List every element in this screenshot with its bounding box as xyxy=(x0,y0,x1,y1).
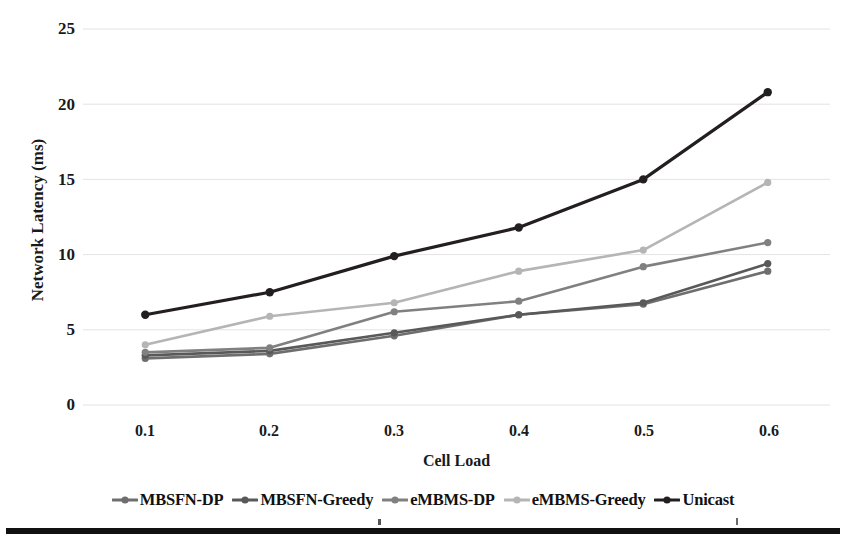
legend-marker-icon xyxy=(112,493,138,507)
data-point xyxy=(515,268,522,275)
data-point xyxy=(640,263,647,270)
series-lines xyxy=(141,88,772,362)
page-bottom-rule xyxy=(6,528,840,534)
data-point xyxy=(142,341,149,348)
data-point xyxy=(141,311,149,319)
data-point xyxy=(266,288,274,296)
data-point xyxy=(266,313,273,320)
gridlines xyxy=(83,29,830,405)
x-tick-label-2: 0.2 xyxy=(229,422,309,440)
series-line xyxy=(145,271,768,358)
legend-item-label: MBSFN-Greedy xyxy=(260,490,373,510)
data-point xyxy=(764,179,771,186)
data-point xyxy=(639,175,647,183)
x-axis-title: Cell Load xyxy=(83,452,830,470)
legend-marker-icon xyxy=(232,493,258,507)
page-speck xyxy=(378,519,381,525)
legend-marker-icon xyxy=(504,493,530,507)
chart-figure: Network Latency (ms) 25 20 15 10 5 0 0.1… xyxy=(0,0,846,549)
x-tick-label-3: 0.3 xyxy=(354,422,434,440)
data-point xyxy=(640,299,647,306)
data-point xyxy=(515,298,522,305)
data-point xyxy=(640,246,647,253)
data-point xyxy=(764,260,771,267)
legend-item-mbsfn-greedy[interactable]: MBSFN-Greedy xyxy=(232,490,373,510)
legend-marker-icon xyxy=(382,493,408,507)
data-point xyxy=(515,223,523,231)
series-line xyxy=(145,92,768,315)
x-tick-label-5: 0.5 xyxy=(604,422,684,440)
chart-legend: MBSFN-DPMBSFN-GreedyeMBMS-DPeMBMS-Greedy… xyxy=(0,487,846,513)
data-point xyxy=(764,268,771,275)
series-unicast xyxy=(141,88,772,319)
data-point xyxy=(390,252,398,260)
x-tick-label-6: 0.6 xyxy=(729,422,809,440)
x-axis-tick-labels: 0.1 0.2 0.3 0.4 0.5 0.6 xyxy=(83,422,830,448)
legend-item-label: Unicast xyxy=(682,490,734,510)
data-point xyxy=(391,308,398,315)
legend-item-label: MBSFN-DP xyxy=(140,490,224,510)
legend-item-label: eMBMS-DP xyxy=(410,490,495,510)
series-mbsfn-greedy xyxy=(142,260,772,359)
data-point xyxy=(764,88,772,96)
legend-item-embms-dp[interactable]: eMBMS-DP xyxy=(382,490,495,510)
legend-item-unicast[interactable]: Unicast xyxy=(654,490,734,510)
data-point xyxy=(515,311,522,318)
x-tick-label-1: 0.1 xyxy=(105,422,185,440)
data-point xyxy=(764,239,771,246)
data-point xyxy=(142,349,149,356)
legend-marker-icon xyxy=(654,493,680,507)
page-speck xyxy=(736,518,738,525)
data-point xyxy=(266,344,273,351)
series-line xyxy=(145,182,768,344)
x-tick-label-4: 0.4 xyxy=(479,422,559,440)
series-line xyxy=(145,264,768,356)
data-point xyxy=(391,329,398,336)
legend-item-mbsfn-dp[interactable]: MBSFN-DP xyxy=(112,490,224,510)
legend-item-label: eMBMS-Greedy xyxy=(532,490,646,510)
data-point xyxy=(391,299,398,306)
legend-item-embms-greedy[interactable]: eMBMS-Greedy xyxy=(504,490,646,510)
